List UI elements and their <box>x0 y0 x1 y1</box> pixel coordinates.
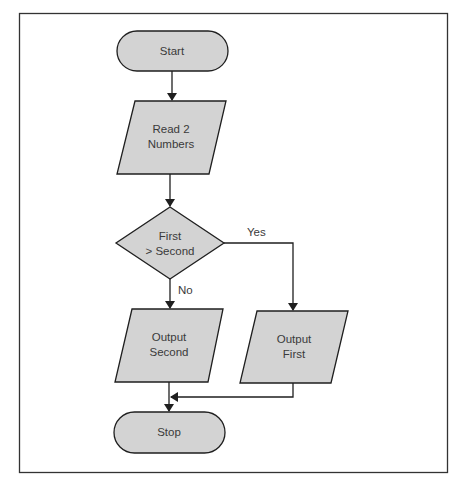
output-second-label-line2: Second <box>149 346 188 358</box>
read-label-line2: Numbers <box>148 138 195 150</box>
no-label: No <box>178 284 193 296</box>
decision-node: First > Second <box>116 207 224 279</box>
output-second-label-line1: Output <box>152 331 187 343</box>
stop-label: Stop <box>157 426 181 438</box>
output-first-node: Output First <box>240 311 348 383</box>
start-node: Start <box>117 31 228 71</box>
arrow-yes-branch <box>224 243 293 310</box>
decision-label-line2: > Second <box>146 245 195 257</box>
output-first-label-line1: Output <box>277 333 312 345</box>
start-label: Start <box>160 45 185 57</box>
output-first-label-line2: First <box>283 348 306 360</box>
decision-label-line1: First <box>159 230 182 242</box>
stop-node: Stop <box>114 412 225 453</box>
yes-label: Yes <box>247 226 266 238</box>
arrow-output-first-merge <box>171 383 293 397</box>
flowchart-canvas: Start Read 2 Numbers First > Second Yes … <box>0 0 462 482</box>
output-second-node: Output Second <box>115 309 223 382</box>
read-numbers-node: Read 2 Numbers <box>117 101 226 174</box>
read-label-line1: Read 2 <box>152 123 189 135</box>
